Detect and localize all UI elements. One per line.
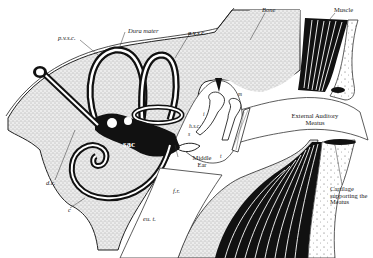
label-dura-mater: Dura mater	[128, 28, 159, 35]
ear-anatomy-diagram	[0, 0, 373, 258]
label-middle-ear-line2: Ear	[197, 161, 206, 168]
label-bone: Bone	[262, 7, 275, 14]
saccule-spot	[124, 117, 132, 125]
label-eut: eu. t.	[143, 216, 156, 223]
cartilage-upper-nodule	[331, 87, 345, 93]
label-m: m	[238, 92, 242, 98]
label-cartilage: Cartilage supporting the Meatus	[330, 186, 367, 206]
cartilage-meatus	[324, 139, 356, 145]
label-t: t	[220, 154, 222, 160]
label-eam-line2: Meatus	[305, 119, 324, 126]
label-cartilage-line3: Meatus	[330, 198, 349, 205]
label-muscle: Muscle	[334, 7, 353, 14]
label-c: c	[68, 207, 71, 214]
label-dc: d.c.	[46, 180, 55, 187]
label-external-auditory-meatus: External Auditory Meatus	[280, 113, 350, 126]
label-avsc: a.v.s.c.	[188, 30, 206, 37]
label-fr: f.r.	[173, 188, 180, 195]
label-sac: sac	[123, 140, 135, 149]
label-middle-ear: Middle Ear	[187, 155, 217, 168]
label-i: i	[203, 112, 205, 118]
label-pvsc: p.v.s.c.	[58, 35, 76, 42]
utricle-spot	[107, 118, 117, 128]
label-hsc: h.s.c.	[189, 124, 200, 130]
label-s: s	[188, 132, 190, 138]
